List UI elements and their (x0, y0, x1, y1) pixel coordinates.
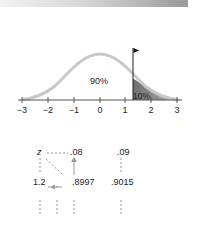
x-tick-label: −3 (17, 106, 27, 115)
right-area-label: 10% (133, 92, 150, 101)
x-tick-label: 0 (97, 106, 102, 115)
x-tick-label: −2 (43, 106, 53, 115)
left-arrow-icon (50, 185, 55, 190)
up-arrow-icon (71, 157, 77, 162)
x-tick-label: 3 (174, 106, 179, 115)
z-table-col-header: .08 (70, 148, 83, 157)
x-tick-label: 1 (122, 106, 127, 115)
x-tick-label: 2 (148, 106, 153, 115)
z-table-row-header: 1.2 (33, 178, 46, 187)
z-table-cell: .9015 (111, 178, 134, 187)
z-table-corner: z (37, 148, 42, 157)
x-tick-label: −1 (69, 106, 79, 115)
normal-curve-diagram (0, 0, 199, 231)
z-table-cell: .8997 (72, 178, 95, 187)
flag-icon (134, 48, 140, 53)
left-area-label: 90% (90, 77, 108, 86)
z-table-col-header: .09 (117, 148, 130, 157)
